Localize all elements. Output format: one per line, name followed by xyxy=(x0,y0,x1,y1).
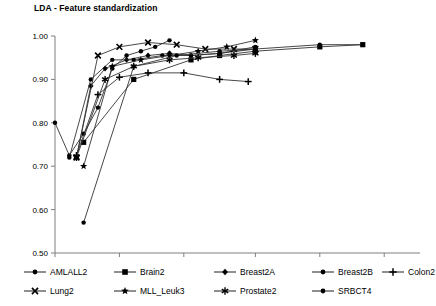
data-point-circle xyxy=(33,270,38,275)
data-point-plus xyxy=(180,70,187,77)
legend-item-amlall2[interactable]: AMLALL2 xyxy=(22,264,87,280)
legend-label: Breast2A xyxy=(240,267,275,277)
data-point-circle xyxy=(174,53,178,57)
series-line xyxy=(55,40,170,155)
data-point-circle xyxy=(81,220,85,224)
legend-marker xyxy=(22,265,48,279)
legend-item-srbct4[interactable]: SRBCT4 xyxy=(310,283,372,299)
legend-marker xyxy=(112,284,138,298)
legend-marker xyxy=(310,284,336,298)
series-amlall2 xyxy=(53,38,172,157)
y-tick-label: 1.00 xyxy=(32,32,48,41)
data-point-circle xyxy=(110,58,114,62)
chart-legend: AMLALL2Brain2Breast2ABreast2BColon2 Lung… xyxy=(0,262,436,306)
data-point-circle xyxy=(253,47,257,51)
series-line xyxy=(76,73,248,155)
legend-row: Lung2MLL_Leuk3Prostate2SRBCT4 xyxy=(0,283,436,299)
series-line xyxy=(76,49,255,158)
series-srbct4 xyxy=(81,42,365,224)
series-lung2 xyxy=(74,40,259,161)
data-point-star xyxy=(252,37,259,44)
legend-key-x-icon xyxy=(22,284,48,298)
legend-marker xyxy=(112,265,138,279)
data-point-diamond xyxy=(222,269,228,275)
data-point-circle xyxy=(96,105,100,109)
plot-area: 0.500.600.700.800.901.0011019293847 xyxy=(0,0,436,262)
legend-marker xyxy=(212,284,238,298)
data-point-circle xyxy=(321,289,326,294)
legend-label: MLL_Leuk3 xyxy=(140,286,184,296)
legend-key-square-icon xyxy=(112,265,138,279)
data-point-circle xyxy=(53,121,57,125)
legend-key-star-icon xyxy=(112,284,138,298)
data-point-square xyxy=(131,77,136,82)
data-point-plus xyxy=(389,268,396,275)
data-point-circle xyxy=(132,64,136,68)
series-line xyxy=(76,43,255,158)
legend-key-plus-icon xyxy=(380,265,406,279)
data-point-circle xyxy=(139,49,143,53)
data-point-circle xyxy=(321,270,326,275)
chart-root: LDA - Feature standardization 0.500.600.… xyxy=(0,0,436,306)
legend-marker xyxy=(212,265,238,279)
data-point-circle xyxy=(167,38,171,42)
series-colon2 xyxy=(73,70,252,159)
legend-marker xyxy=(22,284,48,298)
data-point-circle xyxy=(217,49,221,53)
legend-label: Colon2 xyxy=(408,267,435,277)
data-point-square xyxy=(122,269,128,275)
legend-item-breast2a[interactable]: Breast2A xyxy=(212,264,275,280)
legend-item-breast2b[interactable]: Breast2B xyxy=(310,264,373,280)
data-point-circle xyxy=(153,45,157,49)
data-point-circle xyxy=(318,42,322,46)
legend-label: Brain2 xyxy=(140,267,165,277)
legend-item-prostate2[interactable]: Prostate2 xyxy=(212,283,276,299)
series-line xyxy=(84,45,363,223)
legend-label: Lung2 xyxy=(50,286,74,296)
legend-label: Prostate2 xyxy=(240,286,276,296)
data-point-star xyxy=(80,162,87,169)
legend-item-colon2[interactable]: Colon2 xyxy=(380,264,435,280)
legend-marker xyxy=(310,265,336,279)
series-brain2 xyxy=(81,42,365,145)
legend-label: Breast2B xyxy=(338,267,373,277)
data-point-plus xyxy=(245,78,252,85)
legend-key-circle-icon xyxy=(310,265,336,279)
legend-marker xyxy=(380,265,406,279)
legend-label: AMLALL2 xyxy=(50,267,87,277)
data-point-circle xyxy=(361,42,365,46)
plot-svg: 0.500.600.700.800.901.0011019293847 xyxy=(0,0,436,262)
data-point-circle xyxy=(67,155,71,159)
legend-item-mll_leuk3[interactable]: MLL_Leuk3 xyxy=(112,283,184,299)
legend-key-circle-icon xyxy=(310,284,336,298)
data-point-plus xyxy=(216,76,223,83)
legend-key-asterisk-icon xyxy=(212,284,238,298)
legend-key-diamond-icon xyxy=(212,265,238,279)
legend-label: SRBCT4 xyxy=(338,286,372,296)
y-tick-label: 0.60 xyxy=(32,206,48,215)
y-tick-label: 0.50 xyxy=(32,249,48,258)
legend-item-lung2[interactable]: Lung2 xyxy=(22,283,74,299)
data-point-star xyxy=(121,287,129,294)
y-tick-label: 0.80 xyxy=(32,119,48,128)
legend-key-circle-icon xyxy=(22,265,48,279)
y-tick-label: 0.70 xyxy=(32,162,48,171)
y-tick-label: 0.90 xyxy=(32,75,48,84)
legend-item-brain2[interactable]: Brain2 xyxy=(112,264,165,280)
legend-row: AMLALL2Brain2Breast2ABreast2BColon2 xyxy=(0,264,436,280)
